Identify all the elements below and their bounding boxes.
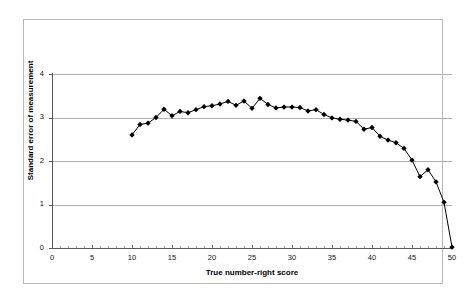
data-point [202, 105, 206, 109]
data-point [410, 158, 414, 162]
series-line [132, 98, 452, 247]
data-point [402, 146, 406, 150]
data-point [194, 108, 198, 112]
data-point [434, 180, 438, 184]
data-point [186, 111, 190, 115]
data-point [394, 141, 398, 145]
data-point [330, 116, 334, 120]
data-point [338, 117, 342, 121]
data-point [370, 126, 374, 130]
data-point [162, 107, 166, 111]
data-point [362, 127, 366, 131]
data-point [146, 121, 150, 125]
data-point [426, 168, 430, 172]
data-point [130, 133, 134, 137]
data-point [218, 102, 222, 106]
data-point [250, 106, 254, 110]
data-point [274, 106, 278, 110]
data-point [138, 123, 142, 127]
data-point [354, 120, 358, 124]
data-point [386, 138, 390, 142]
data-point [210, 104, 214, 108]
data-point [234, 103, 238, 107]
data-point [266, 103, 270, 107]
data-point [282, 105, 286, 109]
series-markers [130, 96, 454, 249]
data-point [450, 245, 454, 249]
data-point [178, 110, 182, 114]
data-point [258, 96, 262, 100]
data-point [442, 200, 446, 204]
data-point [418, 175, 422, 179]
data-point [242, 99, 246, 103]
data-point [298, 106, 302, 110]
data-point [290, 105, 294, 109]
data-point [306, 109, 310, 113]
data-point [314, 108, 318, 112]
data-point [226, 100, 230, 104]
data-point [346, 118, 350, 122]
data-series-layer [0, 0, 465, 302]
data-point [378, 134, 382, 138]
x-axis-title: True number-right score [52, 268, 452, 277]
data-point [170, 114, 174, 118]
data-point [322, 113, 326, 117]
data-point [154, 116, 158, 120]
chart-figure: Standard error of measurement 01234 0510… [0, 0, 465, 302]
